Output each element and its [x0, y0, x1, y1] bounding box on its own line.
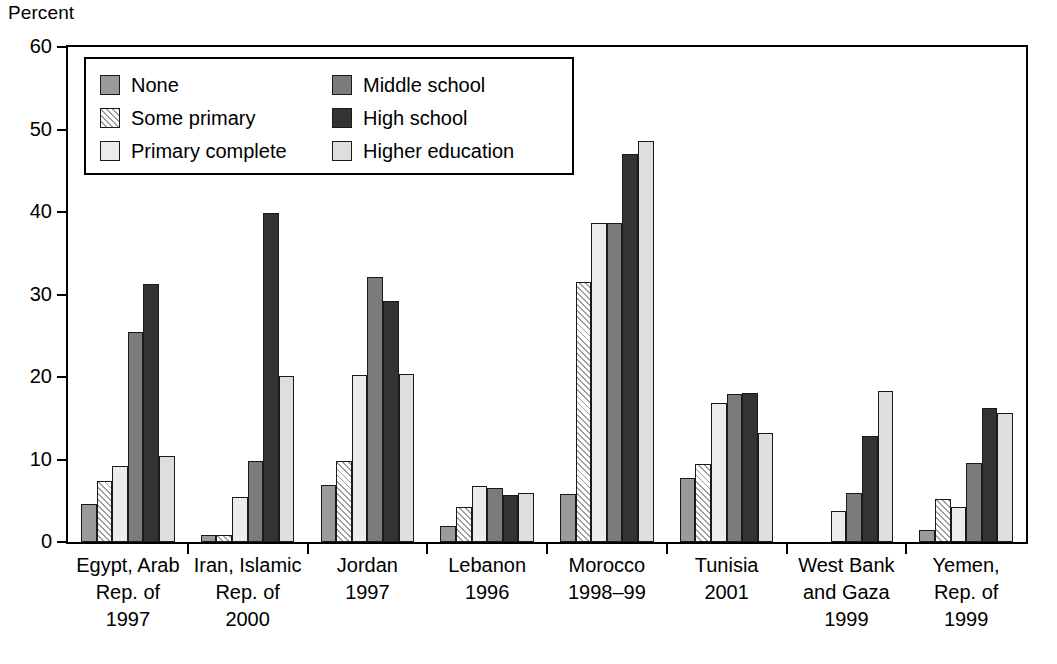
y-tick-label: 30 — [30, 282, 52, 306]
bar-high_school — [862, 436, 878, 542]
y-tick-mark — [57, 541, 66, 543]
x-axis-label-line: Rep. of — [906, 579, 1026, 606]
legend-item-none: None — [100, 68, 340, 101]
y-tick-label: 40 — [30, 199, 52, 223]
bar-primary_complete — [472, 486, 488, 542]
bar-middle_school — [487, 488, 503, 542]
x-axis-label-line: 1996 — [427, 579, 547, 606]
x-axis-label-line: Egypt, Arab — [68, 552, 188, 579]
x-axis-label-line: West Bank — [787, 552, 907, 579]
y-tick-mark — [57, 129, 66, 131]
legend-label: None — [131, 74, 179, 96]
x-axis-label-line: 2001 — [667, 579, 787, 606]
y-tick-mark — [57, 459, 66, 461]
x-axis-label-line: 1999 — [787, 606, 907, 633]
bar-primary_complete — [112, 466, 128, 542]
bar-middle_school — [367, 277, 383, 542]
bar-none — [680, 478, 696, 542]
legend-item-middle_school: Middle school — [332, 68, 570, 101]
bar-none — [919, 530, 935, 542]
bar-middle_school — [727, 394, 743, 542]
bar-some_primary — [456, 507, 472, 542]
bar-high_school — [263, 213, 279, 542]
x-axis-label-line: Morocco — [547, 552, 667, 579]
x-axis-label: Tunisia2001 — [667, 552, 787, 606]
legend-item-some_primary: Some primary — [100, 101, 340, 134]
y-tick-mark — [57, 46, 66, 48]
bar-higher_education — [997, 413, 1013, 542]
bar-none — [440, 526, 456, 543]
legend-swatch-high_school — [332, 108, 352, 128]
legend-label: High school — [363, 107, 468, 129]
bar-higher_education — [518, 493, 534, 542]
legend-swatch-middle_school — [332, 75, 352, 95]
bar-some_primary — [97, 481, 113, 542]
bar-primary_complete — [352, 375, 368, 542]
legend-swatch-none — [100, 75, 120, 95]
bar-higher_education — [159, 456, 175, 542]
bar-primary_complete — [831, 511, 847, 542]
x-axis-label-line: 1997 — [308, 579, 428, 606]
bar-higher_education — [638, 141, 654, 542]
y-tick-mark — [57, 211, 66, 213]
x-axis-label-line: Tunisia — [667, 552, 787, 579]
x-axis-label-line: 1998–99 — [547, 579, 667, 606]
legend: NoneSome primaryPrimary complete Middle … — [84, 57, 574, 175]
bar-higher_education — [878, 391, 894, 542]
legend-item-high_school: High school — [332, 101, 570, 134]
x-axis-label-line: 1999 — [906, 606, 1026, 633]
bar-group — [787, 47, 907, 542]
bar-some_primary — [576, 282, 592, 542]
bar-high_school — [742, 393, 758, 542]
x-axis-label: Egypt, ArabRep. of1997 — [68, 552, 188, 633]
bar-primary_complete — [951, 507, 967, 542]
bar-primary_complete — [232, 497, 248, 542]
x-axis-label: Lebanon1996 — [427, 552, 547, 606]
bar-primary_complete — [591, 223, 607, 542]
x-axis-label: West Bankand Gaza1999 — [787, 552, 907, 633]
x-axis-label-line: Rep. of — [68, 579, 188, 606]
bar-group — [667, 47, 787, 542]
x-axis-label-line: Yemen, — [906, 552, 1026, 579]
legend-label: Middle school — [363, 74, 485, 96]
legend-label: Higher education — [363, 140, 514, 162]
x-axis-label: Jordan1997 — [308, 552, 428, 606]
bar-middle_school — [248, 461, 264, 542]
bar-none — [321, 485, 337, 542]
legend-column-right: Middle schoolHigh schoolHigher education — [332, 68, 570, 167]
y-tick-label: 20 — [30, 364, 52, 388]
y-tick-mark — [57, 376, 66, 378]
y-tick-label: 50 — [30, 117, 52, 141]
legend-item-primary_complete: Primary complete — [100, 134, 340, 167]
bar-primary_complete — [711, 403, 727, 542]
x-axis-label: Iran, IslamicRep. of2000 — [188, 552, 308, 633]
legend-item-higher_education: Higher education — [332, 134, 570, 167]
x-axis-label-line: Lebanon — [427, 552, 547, 579]
y-axis-title: Percent — [8, 2, 74, 24]
bar-high_school — [383, 301, 399, 542]
bar-high_school — [143, 284, 159, 542]
bar-group — [906, 47, 1026, 542]
bar-middle_school — [966, 463, 982, 542]
y-tick-label: 0 — [41, 529, 52, 553]
bar-high_school — [503, 495, 519, 542]
x-axis-label-line: and Gaza — [787, 579, 907, 606]
x-axis-labels: Egypt, ArabRep. of1997Iran, IslamicRep. … — [68, 552, 1026, 660]
legend-swatch-higher_education — [332, 141, 352, 161]
bar-higher_education — [399, 374, 415, 542]
bar-some_primary — [216, 535, 232, 542]
y-tick-label: 60 — [30, 34, 52, 58]
chart-figure: Percent 0102030405060 NoneSome primaryPr… — [0, 0, 1057, 664]
x-axis-label-line: 1997 — [68, 606, 188, 633]
bar-high_school — [622, 154, 638, 542]
x-axis-label: Yemen,Rep. of1999 — [906, 552, 1026, 633]
bar-none — [201, 535, 217, 542]
bar-some_primary — [336, 461, 352, 542]
bar-middle_school — [128, 332, 144, 542]
bar-some_primary — [935, 499, 951, 542]
y-tick-label: 10 — [30, 447, 52, 471]
legend-column-left: NoneSome primaryPrimary complete — [100, 68, 340, 167]
bar-none — [560, 494, 576, 542]
legend-swatch-primary_complete — [100, 141, 120, 161]
bar-high_school — [982, 408, 998, 542]
